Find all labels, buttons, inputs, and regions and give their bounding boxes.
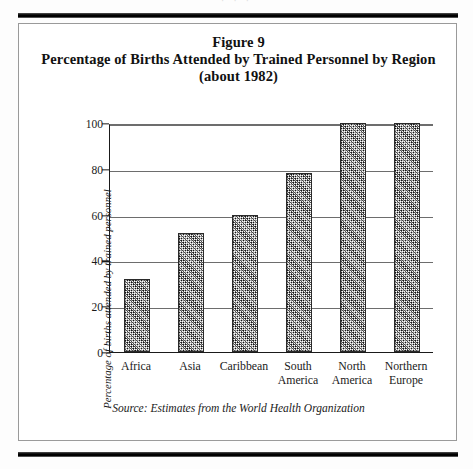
bar-series: [110, 125, 433, 352]
bottom-rule: [18, 452, 458, 457]
bar: [394, 123, 420, 352]
bar-chart: 020406080100 Percentage of births attend…: [109, 124, 433, 353]
bar: [232, 215, 258, 352]
x-tick-label: Caribbean: [216, 360, 272, 374]
plot-area: [109, 124, 433, 353]
y-tick-mark: [102, 123, 109, 124]
bar: [340, 123, 366, 352]
x-tick-label: SouthAmerica: [270, 360, 326, 387]
bar: [124, 279, 150, 352]
x-tick-label: Asia: [162, 360, 218, 374]
x-tick-label: NorthernEurope: [378, 360, 434, 387]
top-rule: [18, 13, 458, 18]
scan-edge-text: · · ·: [0, 0, 473, 6]
figure-title: Figure 9 Percentage of Births Attended b…: [19, 34, 458, 85]
bar: [178, 233, 204, 352]
x-tick-label: NorthAmerica: [324, 360, 380, 387]
source-note: Source: Estimates from the World Health …: [19, 402, 458, 414]
y-tick-label: 80: [92, 164, 104, 176]
figure-number: Figure 9: [19, 34, 458, 51]
scan-edge-artifact: · · ·: [0, 0, 473, 9]
x-tick-label: Africa: [108, 360, 164, 374]
scanned-page: · · · Figure 9 Percentage of Births Atte…: [0, 0, 473, 469]
bar: [286, 173, 312, 352]
figure-title-main: Percentage of Births Attended by Trained…: [19, 51, 458, 68]
x-axis-labels: AfricaAsiaCaribbeanSouthAmericaNorthAmer…: [109, 360, 433, 390]
y-tick-label: 100: [86, 118, 103, 130]
figure-frame: Figure 9 Percentage of Births Attended b…: [18, 23, 457, 441]
figure-title-sub: (about 1982): [19, 68, 458, 85]
